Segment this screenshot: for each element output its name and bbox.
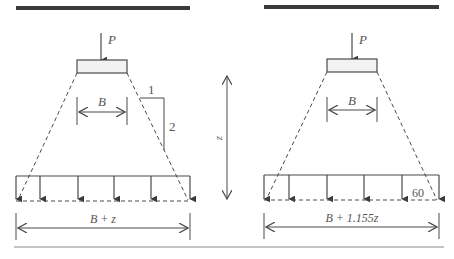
left-base-label: B + z [90,212,116,226]
slope-horizontal-label: 1 [148,82,155,97]
right-b-label: B [348,93,356,108]
right-base-label: B + 1.155z [325,211,378,225]
depth-indicator: z [212,76,227,199]
left-panel: P B 1 2 B + z [16,8,190,240]
left-load-label: P [107,32,116,47]
right-footing [327,59,377,72]
stress-distribution-diagram: P B 1 2 B + z z P [0,0,454,259]
right-panel: P B 60 B + 1.155z [264,7,439,239]
right-spread-line-right [377,72,437,200]
left-footing [77,60,127,73]
right-spread-line-left [266,72,327,200]
left-spread-line-right [127,73,188,200]
depth-label: z [212,135,224,141]
left-spread-line-left [18,73,77,200]
slope-vertical-label: 2 [169,119,176,134]
angle-label: 60 [412,186,424,200]
left-b-label: B [98,94,106,109]
left-distributed-load [16,176,190,201]
right-load-label: P [358,32,367,47]
